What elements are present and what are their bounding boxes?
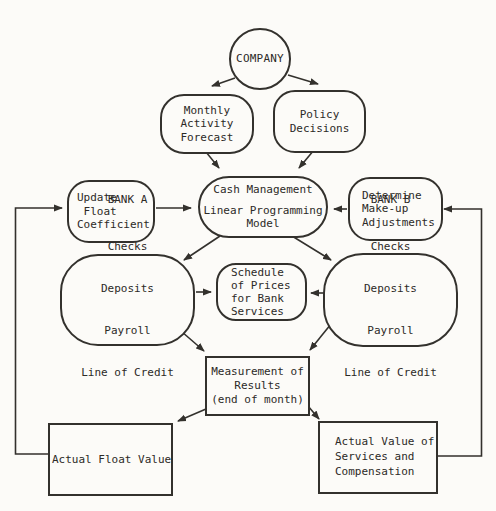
bank-a-title: BANK A — [108, 193, 148, 207]
node-actual-float-value: Actual Float Value — [48, 423, 173, 496]
actual-float-value-label: Actual Float Value — [52, 453, 171, 467]
bank-service: Line of Credit — [81, 365, 174, 380]
node-cash-management-model: Cash Management Linear Programming Model — [198, 176, 328, 238]
node-monthly-activity-forecast: Monthly Activity Forecast — [160, 94, 254, 154]
forecast-line: Monthly — [184, 104, 230, 118]
schedule-line: Schedule — [231, 266, 284, 279]
policy-line: Decisions — [290, 122, 350, 136]
bank-b-title: BANK B — [371, 193, 411, 207]
node-schedule-of-prices: Schedule of Prices for Bank Services — [216, 263, 307, 321]
arrow-bank-b-to-measurement — [310, 324, 331, 350]
node-company: COMPANY — [229, 28, 291, 90]
policy-line: Policy — [300, 108, 340, 122]
services-value-line: Compensation — [335, 464, 414, 479]
bank-service: Deposits — [81, 281, 174, 296]
schedule-line: of Prices — [231, 279, 291, 292]
bank-a-services: Checks Deposits Payroll Line of Credit — [81, 212, 174, 407]
feedback-loop-float-value-to-update — [16, 208, 63, 454]
bank-service: Checks — [344, 239, 437, 254]
forecast-line: Forecast — [181, 131, 234, 145]
bank-service: Payroll — [344, 323, 437, 338]
bank-service: Line of Credit — [344, 365, 437, 380]
bank-service: Payroll — [81, 323, 174, 338]
node-policy-decisions: Policy Decisions — [273, 90, 366, 153]
arrow-company-to-policy — [288, 75, 318, 84]
cash-management-flowchart: COMPANY Monthly Activity Forecast Policy… — [0, 0, 496, 511]
bank-service: Checks — [81, 239, 174, 254]
services-value-line: Services and — [335, 449, 414, 464]
model-line: Model — [246, 217, 279, 231]
services-value-line: Actual Value of — [335, 434, 434, 449]
node-actual-value-of-services: Actual Value of Services and Compensatio… — [318, 421, 438, 494]
node-measurement-of-results: Measurement of Results (end of month) — [205, 356, 310, 416]
schedule-line: Services — [231, 305, 284, 318]
arrow-model-to-bank-a — [184, 236, 220, 260]
node-bank-b: BANK B Checks Deposits Payroll Line of C… — [323, 253, 458, 347]
company-label: COMPANY — [236, 52, 284, 66]
node-bank-a: BANK A Checks Deposits Payroll Line of C… — [60, 254, 195, 346]
arrow-forecast-to-model — [206, 152, 219, 168]
schedule-line: for Bank — [231, 292, 284, 305]
measurement-line: Measurement of — [211, 365, 304, 379]
measurement-line: Results — [234, 379, 280, 393]
measurement-line: (end of month) — [211, 393, 304, 407]
forecast-line: Activity — [181, 117, 234, 131]
arrow-model-to-bank-b — [292, 236, 331, 260]
arrow-measurement-to-float-value — [178, 409, 206, 421]
arrow-company-to-forecast — [212, 78, 235, 86]
bank-service: Deposits — [344, 281, 437, 296]
bank-b-services: Checks Deposits Payroll Line of Credit — [344, 212, 437, 407]
model-line: Linear Programming — [203, 204, 322, 218]
model-line: Cash Management — [213, 183, 312, 197]
